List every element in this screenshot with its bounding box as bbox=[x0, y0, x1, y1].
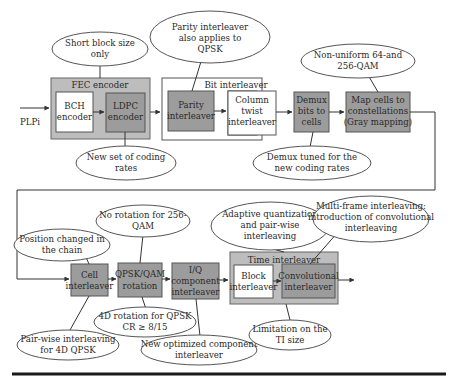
iq-line-3: interleaver bbox=[172, 287, 221, 297]
bch-line-1: BCH bbox=[64, 101, 85, 111]
bit-interleaver-label: Bit interleaver bbox=[204, 80, 268, 90]
rotation-line-1: QPSK/QAM bbox=[115, 269, 165, 279]
multi-frame-line-3: interleaving bbox=[345, 223, 398, 233]
cell-interleaver-block bbox=[71, 264, 108, 296]
no-rotation-line-2: QAM bbox=[132, 221, 154, 231]
plp-input-label: PLPi bbox=[20, 117, 40, 127]
map-line-1: Map cells to bbox=[351, 95, 404, 105]
pair-wise-line-1: Pair-wise interleaving bbox=[20, 334, 116, 344]
parity-qpsk-line-1: Parity interleaver bbox=[172, 22, 249, 32]
demux-tuned-leader bbox=[310, 132, 313, 147]
coding-rates-line-2: rates bbox=[115, 163, 137, 173]
parity-line-1: Parity bbox=[178, 100, 204, 110]
adaptive-quant-line-2: and pair-wise bbox=[241, 220, 300, 230]
demux-tuned-line-1: Demux tuned for the bbox=[267, 152, 357, 162]
adaptive-quant-line-1: Adaptive quantization bbox=[221, 209, 318, 219]
adaptive-quant-line-3: interleaving bbox=[244, 231, 297, 241]
position-changed-line-1: Position changed in bbox=[19, 234, 105, 244]
conv-line-1: Convolutional bbox=[278, 271, 339, 281]
bch-line-2: encoder bbox=[57, 112, 93, 122]
map-line-3: (Gray mapping) bbox=[344, 117, 412, 127]
ti-limit-line-1: Limitation on the bbox=[252, 324, 327, 334]
parity-line-2: interleaver bbox=[167, 111, 216, 121]
iq-line-1: I/Q bbox=[189, 265, 202, 275]
ti-limit-leader bbox=[286, 304, 290, 320]
no-rotation-line-1: No rotation for 256- bbox=[99, 210, 187, 220]
map-line-2: constellations bbox=[348, 106, 408, 116]
multi-frame-line-2: introduction of convolutional bbox=[308, 212, 434, 222]
new-iq-line-1: New optimized component bbox=[141, 339, 258, 349]
demux-line-1: Demux bbox=[296, 95, 327, 105]
demux-line-2: bits to bbox=[298, 106, 325, 116]
block-line-2: interleaver bbox=[230, 282, 279, 292]
short-block-line-2: only bbox=[91, 49, 109, 59]
ti-limit-line-2: TI size bbox=[276, 335, 305, 345]
column-line-1: Column bbox=[235, 95, 269, 105]
demux-line-3: cells bbox=[302, 117, 322, 127]
block-line-1: Block bbox=[241, 271, 266, 281]
parity-qpsk-line-2: also applies to bbox=[179, 33, 242, 43]
parity-qpsk-line-3: QPSK bbox=[197, 44, 223, 54]
rotation-4d-line-2: CR ≥ 8/15 bbox=[122, 322, 167, 332]
ldpc-line-1: LDPC bbox=[113, 101, 138, 111]
coding-rates-line-1: New set of coding bbox=[87, 152, 166, 162]
rotation-4d-line-1: 4D rotation for QPSK bbox=[99, 311, 192, 321]
pair-wise-leader bbox=[70, 296, 89, 330]
multi-frame-line-1: Multi-frame interleaving: bbox=[316, 201, 426, 211]
non-uniform-line-1: Non-uniform 64-and bbox=[314, 50, 403, 60]
cell-line-2: interleaver bbox=[66, 281, 115, 291]
convolutional-interleaver-block bbox=[282, 264, 335, 298]
non-uniform-line-2: 256-QAM bbox=[337, 61, 379, 71]
conv-line-2: interleaver bbox=[285, 282, 334, 292]
new-iq-leader bbox=[196, 299, 200, 336]
ldpc-line-2: encoder bbox=[108, 112, 144, 122]
rotation-line-2: rotation bbox=[123, 281, 158, 291]
short-block-line-1: Short block size bbox=[65, 38, 135, 48]
column-line-3: interleaver bbox=[228, 117, 277, 127]
cell-line-1: Cell bbox=[81, 270, 98, 280]
pair-wise-line-2: for 4D QPSK bbox=[40, 345, 96, 355]
no-rotation-leader bbox=[140, 235, 143, 263]
fec-encoder-label: FEC encoder bbox=[72, 80, 130, 90]
new-iq-line-2: interleaver bbox=[175, 350, 224, 360]
column-line-2: twist bbox=[241, 106, 263, 116]
demux-tuned-line-2: new coding rates bbox=[275, 163, 350, 173]
position-changed-line-2: the chain bbox=[42, 245, 83, 255]
iq-line-2: component bbox=[171, 276, 220, 286]
bicm-diagram: PLPi FEC encoder BCH encoder LDPC encode… bbox=[0, 0, 455, 384]
